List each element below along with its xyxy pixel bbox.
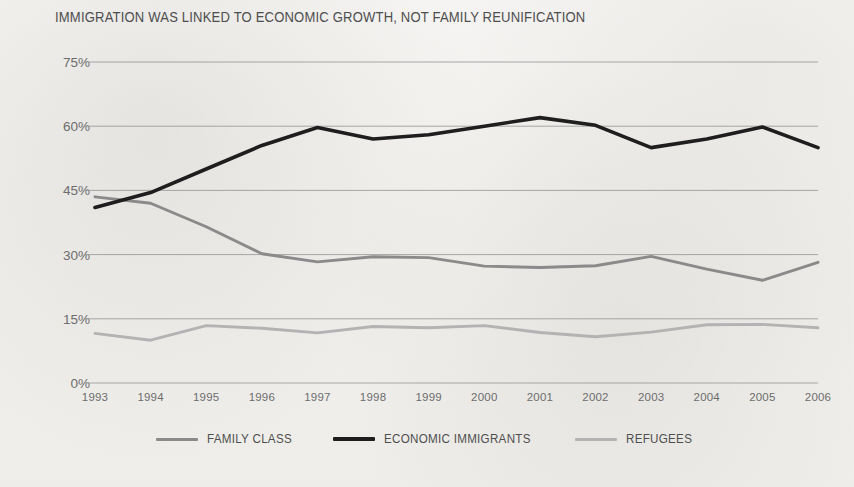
x-tick-label-2000: 2000: [471, 391, 497, 403]
x-tick-label-1999: 1999: [415, 391, 441, 403]
legend-label: ECONOMIC IMMIGRANTS: [384, 432, 531, 446]
legend-line-swatch: [333, 437, 375, 441]
series-line-refugees: [95, 324, 818, 340]
series-line-economic-immigrants: [95, 118, 818, 208]
legend-label: REFUGEES: [626, 432, 692, 446]
series-lines: [95, 118, 818, 341]
legend-line-swatch: [156, 438, 198, 441]
x-tick-label-2004: 2004: [694, 391, 720, 403]
legend-label: FAMILY CLASS: [207, 432, 292, 446]
x-tick-label-1993: 1993: [82, 391, 108, 403]
x-tick-label-1998: 1998: [360, 391, 386, 403]
series-line-family-class: [95, 197, 818, 280]
legend-item-family-class[interactable]: FAMILY CLASS: [156, 432, 298, 446]
x-tick-label-2005: 2005: [749, 391, 775, 403]
line-chart: IMMIGRATION WAS LINKED TO ECONOMIC GROWT…: [0, 0, 854, 487]
legend-item-refugees[interactable]: REFUGEES: [575, 432, 697, 446]
x-tick-label-2001: 2001: [527, 391, 553, 403]
x-tick-label-2002: 2002: [582, 391, 608, 403]
x-tick-label-1994: 1994: [137, 391, 163, 403]
x-tick-label-2003: 2003: [638, 391, 664, 403]
chart-legend: FAMILY CLASSECONOMIC IMMIGRANTSREFUGEES: [0, 432, 854, 446]
x-tick-label-2006: 2006: [805, 391, 831, 403]
plot-area: [0, 0, 854, 487]
x-tick-label-1995: 1995: [193, 391, 219, 403]
x-tick-label-1996: 1996: [249, 391, 275, 403]
legend-item-economic-immigrants[interactable]: ECONOMIC IMMIGRANTS: [333, 432, 542, 446]
x-tick-label-1997: 1997: [304, 391, 330, 403]
legend-line-swatch: [575, 438, 617, 441]
